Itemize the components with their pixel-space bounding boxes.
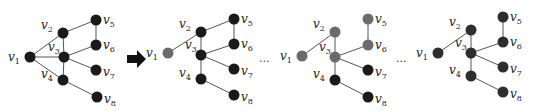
node-v4	[466, 71, 477, 82]
node-v2	[58, 28, 69, 39]
label-v2: v2	[41, 18, 53, 34]
label-v6: v6	[103, 38, 115, 54]
label-v5: v5	[510, 10, 522, 26]
label-v7: v7	[103, 65, 115, 81]
panel-tree-step-k: v1v2v3v4v5v6v7v8	[280, 12, 387, 108]
label-v4: v4	[449, 63, 461, 79]
node-v6	[229, 39, 240, 50]
label-v2: v2	[313, 17, 325, 33]
label-v3: v3	[185, 38, 197, 54]
label-v6: v6	[510, 35, 522, 51]
node-v2	[466, 25, 477, 36]
node-v6	[91, 40, 102, 51]
node-v4	[58, 75, 69, 86]
node-v5	[498, 12, 509, 23]
label-v1: v1	[416, 46, 428, 62]
node-v7	[229, 64, 240, 75]
label-v4: v4	[179, 66, 191, 82]
node-v8	[92, 92, 103, 103]
node-v2	[196, 27, 207, 38]
ellipsis-2: ...	[396, 52, 407, 65]
label-v4: v4	[41, 67, 53, 83]
label-v3: v3	[48, 40, 60, 56]
node-v1	[25, 52, 36, 63]
label-v7: v7	[510, 62, 522, 78]
node-v1	[163, 48, 174, 59]
label-v4: v4	[313, 67, 325, 83]
node-v2	[330, 27, 341, 38]
node-v6	[363, 40, 374, 51]
label-v7: v7	[375, 65, 387, 81]
label-v2: v2	[449, 15, 461, 31]
ellipsis-1: ...	[259, 52, 270, 65]
node-v8	[363, 92, 374, 103]
node-v3	[196, 50, 207, 61]
panel-initial-graph: v1v2v3v4v5v6v7v8	[8, 13, 116, 108]
label-v6: v6	[375, 38, 387, 54]
edge-v4-v8	[63, 80, 97, 97]
label-v5: v5	[375, 12, 387, 28]
node-v5	[91, 15, 102, 26]
node-v3	[466, 48, 477, 59]
label-v1: v1	[280, 49, 292, 65]
right-arrow-icon	[127, 50, 146, 68]
graph-diagram: ... ... v1v2v3v4v5v6v7v8v1v2v3v4v5v6v7v8…	[0, 0, 535, 111]
label-v6: v6	[241, 37, 253, 53]
label-v8: v8	[241, 90, 253, 106]
label-v2: v2	[179, 17, 191, 33]
label-v8: v8	[104, 92, 116, 108]
node-v1	[433, 48, 444, 59]
node-v8	[229, 90, 240, 101]
label-v1: v1	[8, 50, 20, 66]
node-v5	[363, 14, 374, 25]
label-v8: v8	[510, 87, 522, 103]
node-v6	[498, 37, 509, 48]
label-v8: v8	[375, 92, 387, 108]
node-v1	[297, 51, 308, 62]
label-v7: v7	[241, 64, 253, 80]
node-v3	[330, 52, 341, 63]
panel-spanning-tree: v1v2v3v4v5v6v7v8	[416, 10, 522, 103]
node-v4	[196, 74, 207, 85]
label-v5: v5	[241, 12, 253, 28]
edge-v4-v8	[335, 80, 368, 97]
panel-tree-step-1: v1v2v3v4v5v6v7v8	[146, 12, 253, 106]
node-v7	[363, 65, 374, 76]
edge-v4-v8	[201, 79, 234, 95]
label-v3: v3	[455, 36, 467, 52]
label-v5: v5	[103, 13, 115, 29]
node-v5	[229, 14, 240, 25]
node-v7	[498, 62, 509, 73]
node-v8	[498, 87, 509, 98]
node-v7	[91, 65, 102, 76]
label-v3: v3	[319, 40, 331, 56]
label-v1: v1	[146, 46, 158, 62]
node-v3	[59, 52, 70, 63]
node-v4	[330, 75, 341, 86]
